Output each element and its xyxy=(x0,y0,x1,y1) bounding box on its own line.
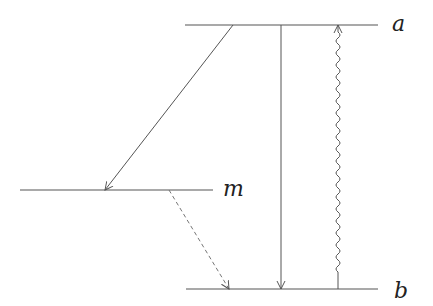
level-m-label: m xyxy=(223,176,244,201)
photon-absorption-wavy-arrow xyxy=(336,25,340,289)
transition-m-to-b-dashed-arrow xyxy=(169,190,229,289)
energy-level-diagram: a m b xyxy=(0,0,433,306)
level-b-label: b xyxy=(394,278,408,303)
transition-a-to-m-arrow xyxy=(105,25,233,190)
level-a-label: a xyxy=(392,11,405,36)
